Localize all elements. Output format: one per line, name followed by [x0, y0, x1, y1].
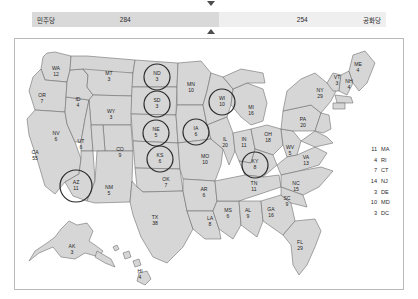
state-MA-small	[335, 95, 353, 103]
legend-votes: 10	[364, 199, 381, 205]
state-label-TN: TN11	[251, 180, 258, 192]
state-votes: 3	[156, 103, 159, 109]
legend-abbr: DC	[381, 210, 389, 216]
state-votes: 5	[155, 132, 158, 138]
democrat-seat-count: 284	[120, 16, 131, 23]
state-CT-small	[333, 103, 345, 109]
state-votes: 11	[251, 186, 256, 192]
state-votes: 13	[303, 160, 309, 166]
state-TN	[215, 175, 281, 201]
state-label-WI: WI10	[219, 95, 225, 107]
state-votes: 3	[108, 76, 111, 82]
state-votes: 8	[254, 164, 257, 170]
legend-row-DE: 3DE	[364, 186, 404, 197]
triangle-down-icon	[207, 1, 215, 6]
state-UT3	[91, 125, 105, 151]
state-votes: 4	[139, 274, 142, 280]
state-votes: 16	[268, 212, 274, 218]
state-MO	[178, 139, 223, 181]
legend-abbr: DE	[381, 189, 389, 195]
state-votes: 7	[41, 98, 44, 104]
state-HI-3	[133, 259, 141, 267]
legend-row-RI: 4RI	[364, 155, 404, 166]
seat-balance-header: 민주당 284 254 공화당	[0, 0, 418, 36]
legend-abbr: RI	[381, 157, 387, 163]
state-label-IN: IN11	[241, 136, 247, 148]
state-votes: 10	[188, 87, 194, 93]
state-votes: 55	[32, 155, 38, 161]
state-votes: 38	[152, 220, 158, 226]
state-votes: 3	[336, 80, 339, 86]
state-votes: 8	[209, 221, 212, 227]
state-votes: 16	[248, 110, 254, 116]
state-votes: 4	[357, 67, 360, 73]
state-votes: 4	[77, 102, 80, 108]
state-votes: 4	[348, 84, 351, 90]
state-votes: 6	[227, 213, 230, 219]
legend-votes: 14	[364, 178, 381, 184]
state-HI-2	[123, 251, 131, 259]
state-votes: 10	[219, 101, 225, 107]
state-votes: 20	[300, 122, 306, 128]
state-votes: 3	[71, 249, 74, 255]
legend-row-CT: 7CT	[364, 165, 404, 176]
state-label-TX: TX38	[152, 214, 159, 226]
state-AK	[29, 221, 103, 261]
state-votes: 9	[119, 152, 122, 158]
legend-row-DC: 3DC	[364, 208, 404, 219]
state-label-VA: VA13	[303, 154, 310, 166]
democrat-party-label: 민주당	[37, 15, 55, 25]
legend-votes: 3	[364, 189, 381, 195]
state-label-AZ: AZ11	[73, 179, 80, 191]
seat-bar[interactable]: 민주당 284 254 공화당	[32, 12, 386, 27]
state-votes: 9	[286, 201, 289, 207]
state-MD	[301, 131, 333, 147]
legend-abbr: CT	[381, 167, 388, 173]
state-votes: 6	[55, 136, 58, 142]
legend-votes: 3	[364, 210, 381, 216]
republican-party-label: 공화당	[363, 15, 381, 25]
state-label-MI: MI16	[248, 104, 254, 116]
legend-abbr: NJ	[381, 178, 388, 184]
state-votes: 9	[247, 213, 250, 219]
state-votes: 6	[159, 158, 162, 164]
state-votes: 29	[317, 93, 323, 99]
state-label-IL: IL20	[222, 136, 228, 148]
legend-votes: 11	[364, 146, 381, 152]
state-votes: 3	[156, 76, 159, 82]
state-label-FL: FL29	[297, 239, 303, 251]
state-votes: 11	[241, 142, 246, 148]
state-AK-tail	[95, 251, 115, 267]
state-votes: 20	[222, 142, 228, 148]
state-votes: 29	[297, 245, 303, 251]
republican-seat-count: 254	[297, 16, 308, 23]
state-votes: 3	[110, 114, 113, 120]
triangle-up-icon	[207, 29, 215, 34]
legend-votes: 7	[364, 167, 381, 173]
legend-row-MD: 10MD	[364, 197, 404, 208]
democrat-segment[interactable]: 민주당 284	[32, 12, 219, 27]
state-votes: 5	[108, 190, 111, 196]
legend-row-MA: 11MA	[364, 144, 404, 155]
state-votes: 6	[195, 131, 198, 137]
state-HI-1	[113, 245, 119, 251]
state-votes: 18	[265, 137, 271, 143]
state-votes: 15	[293, 186, 299, 192]
state-votes: 11	[73, 185, 78, 191]
legend-votes: 4	[364, 157, 381, 163]
us-map-panel[interactable]: WA12OR7CA55NV6ID4MT3WY3UT6AZ11CO9NM5ND3S…	[14, 38, 404, 290]
legend-abbr: MD	[381, 199, 390, 205]
state-votes: 5	[289, 150, 292, 156]
state-votes: 6	[80, 144, 83, 150]
legend-row-NJ: 14NJ	[364, 176, 404, 187]
us-states-map[interactable]: WA12OR7CA55NV6ID4MT3WY3UT6AZ11CO9NM5ND3S…	[15, 39, 403, 289]
state-votes: 7	[165, 182, 168, 188]
state-label-PA: PA20	[300, 116, 307, 128]
state-votes: 6	[203, 192, 206, 198]
state-ME	[349, 51, 375, 91]
state-AR	[183, 179, 217, 211]
small-states-legend: 11MA4RI7CT14NJ3DE10MD3DC	[364, 144, 404, 218]
legend-abbr: MA	[381, 146, 389, 152]
republican-segment[interactable]: 254 공화당	[219, 12, 386, 27]
state-votes: 12	[53, 71, 59, 77]
